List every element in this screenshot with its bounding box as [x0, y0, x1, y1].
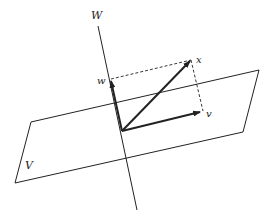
label-v: v [206, 108, 212, 119]
label-v-plane: V [25, 159, 34, 172]
label-w: w [97, 75, 106, 86]
label-w-subspace: W [91, 9, 104, 22]
decomposition-diagram: W x w v V [0, 0, 271, 218]
dashed-w-to-x [111, 60, 191, 79]
vector-w-arrow [111, 81, 122, 131]
vector-v-arrow [122, 112, 200, 131]
vector-x-arrow [122, 61, 190, 131]
subspace-w-line [98, 26, 137, 210]
label-x: x [196, 54, 202, 65]
